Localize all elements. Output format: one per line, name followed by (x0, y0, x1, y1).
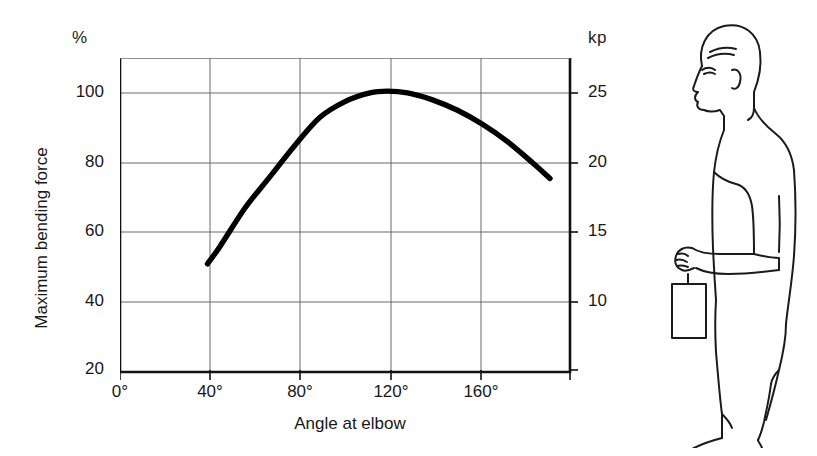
chart-figure: % kp Maximum bending force Angle at elbo… (0, 0, 817, 456)
left-axis-unit-label: % (72, 28, 88, 48)
y-tick-label-right-0: 25 (588, 82, 634, 102)
plot-area (120, 58, 570, 372)
plot-frame (120, 58, 570, 372)
x-axis-title: Angle at elbow (240, 414, 460, 434)
y-tick-label-left-1: 80 (58, 152, 104, 172)
y-tick-label-left-3: 40 (58, 291, 104, 311)
y-tick-label-left-4: 20 (58, 359, 104, 379)
person-illustration (636, 8, 814, 448)
gridlines-horizontal (120, 93, 570, 302)
bending-force-curve (208, 91, 551, 264)
y-tick-label-right-3: 10 (588, 291, 634, 311)
y-axis-title: Maximum bending force (32, 108, 52, 368)
y-tick-label-right-1: 20 (588, 152, 634, 172)
y-tick-label-left-2: 60 (58, 221, 104, 241)
axis-ticks (120, 93, 578, 380)
right-axis-unit-label: kp (588, 28, 607, 48)
y-tick-label-right-2: 15 (588, 221, 634, 241)
y-tick-label-left-0: 100 (58, 82, 104, 102)
